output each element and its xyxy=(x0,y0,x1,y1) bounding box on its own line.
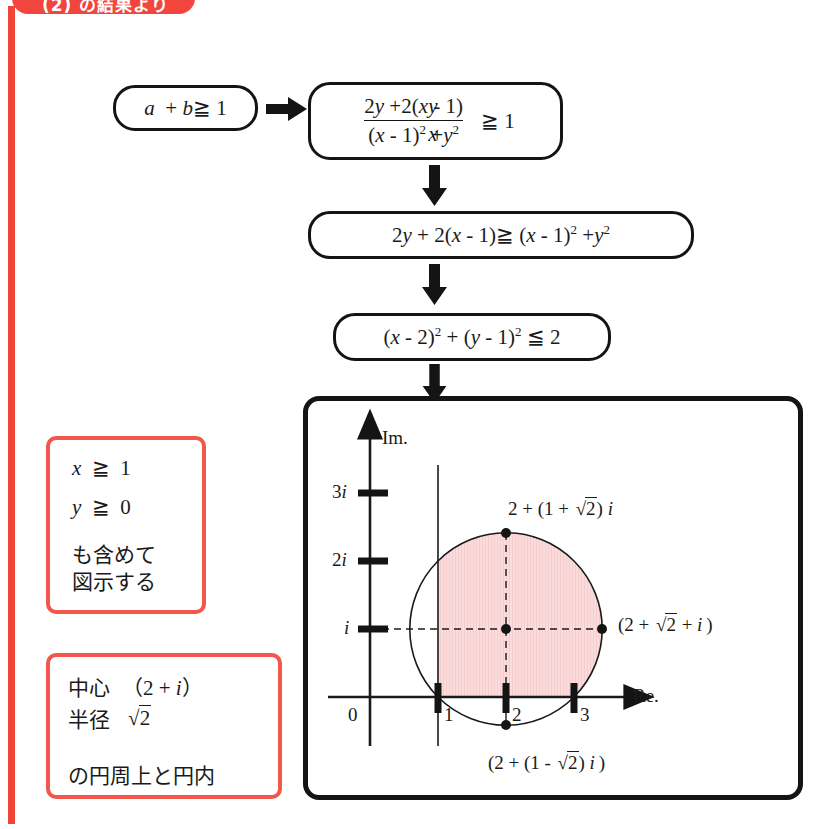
point-label-bottom: (2 + (1 - √2) i ) xyxy=(488,751,605,774)
note-conditions-line-4: も含めて xyxy=(72,542,202,569)
point-center xyxy=(501,624,511,634)
flow-step-2-denominator: (x - 1)2 +y2 xyxy=(364,120,463,148)
note-circle-radius-label: 半径 xyxy=(68,703,110,733)
flow-step-4: (x - 2)2 + (y - 1)2 ≦ 2 xyxy=(333,313,611,361)
note-circle-radius-value: √2 xyxy=(126,705,151,731)
ytick-label-3i: 3i xyxy=(332,481,347,503)
flow-step-3: 2y + 2(x - 1)≧ (x - 1)2 +y2 xyxy=(308,211,694,259)
note-circle-conclusion: の円周上と円内 xyxy=(68,759,278,789)
flow-step-2-formula: 2y +2(x - 1) (x - 1)2 +y2 ≧ 1 xyxy=(308,82,563,160)
axis-label-im: Im. xyxy=(382,427,408,449)
flow-step-3-text: 2y + 2(x - 1)≧ (x - 1)2 +y2 xyxy=(392,222,610,248)
point-right xyxy=(597,624,607,634)
section-header-tab: (2) の結果より xyxy=(12,0,195,14)
point-label-right: (2 + √2 + i ) xyxy=(618,613,713,636)
flow-step-4-text: (x - 2)2 + (y - 1)2 ≦ 2 xyxy=(383,324,560,350)
xtick-label-1: 1 xyxy=(444,704,454,726)
xtick-label-3: 3 xyxy=(580,704,590,726)
note-circle-center-value: （2 + i） xyxy=(122,671,203,701)
flow-step-1: a + b≧ 1 xyxy=(113,85,258,131)
ytick-label-2i: 2i xyxy=(332,549,347,571)
flow-step-2-relation: ≧ 1 xyxy=(481,109,515,134)
note-circle-radius-row: 半径 √2 xyxy=(68,703,278,733)
note-conditions-line-5: 図示する xyxy=(72,569,202,596)
note-circle-center-row: 中心 （2 + i） xyxy=(68,671,278,701)
section-header-label: (2) の結果より xyxy=(42,0,169,14)
note-circle-center-label: 中心 xyxy=(68,671,110,701)
complex-plane-graph: Im. Re. 3i 2i i 0 1 2 3 2 + (1 + √2) i (… xyxy=(303,396,803,800)
arrow-down-1 xyxy=(422,165,448,207)
note-conditions-line-1: x ≧ 1 xyxy=(72,456,202,481)
graph-svg xyxy=(308,401,798,795)
arrow-right-1 xyxy=(266,97,308,121)
point-label-top: 2 + (1 + √2) i xyxy=(508,497,613,520)
xtick-label-2: 2 xyxy=(512,704,522,726)
note-circle: 中心 （2 + i） 半径 √2 の円周上と円内 xyxy=(46,653,282,799)
flow-step-2-fraction: 2y +2(x - 1) (x - 1)2 +y2 xyxy=(360,95,467,147)
point-top xyxy=(501,528,511,538)
flow-step-2-numerator: 2y +2(x - 1) xyxy=(360,95,467,120)
note-conditions: x ≧ 1 y ≧ 0 も含めて 図示する xyxy=(46,436,206,614)
flow-step-1-text: a + b≧ 1 xyxy=(144,96,226,121)
xtick-label-0: 0 xyxy=(348,704,358,726)
point-bottom xyxy=(501,720,511,730)
axis-label-re: Re. xyxy=(633,685,659,707)
ytick-label-i: i xyxy=(344,617,349,639)
arrow-down-2 xyxy=(422,264,448,306)
note-conditions-line-2: y ≧ 0 xyxy=(72,495,202,520)
